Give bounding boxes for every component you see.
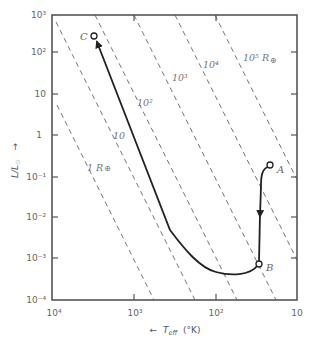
x-tick-label: 10⁴ (46, 308, 61, 318)
x-tick-label: 10³ (127, 308, 142, 318)
point-c-marker (91, 33, 97, 39)
x-tick-label: 10² (208, 308, 223, 318)
radius-line-100 (95, 15, 237, 300)
point-c-label: C (80, 31, 88, 42)
radius-label-1000: 10³ (172, 72, 188, 83)
y-tick-label: 10⁻¹ (26, 172, 46, 182)
y-tick-label: 10⁻² (26, 212, 46, 222)
radius-line-1 (57, 105, 154, 300)
point-b-label: B (265, 262, 273, 273)
point-a-label: A (276, 164, 284, 175)
hr-diagram-chart: 10³ 10² 10 1 10⁻¹ 10⁻² 10⁻³ 10⁻⁴ 10⁴ 10³… (0, 0, 317, 352)
point-a-marker (267, 162, 273, 168)
y-tick-label: 1 (36, 130, 42, 140)
y-tick-label: 10² (31, 47, 46, 57)
x-tick-label: 10 (291, 308, 303, 318)
track-a-to-b-lower (259, 214, 260, 262)
truncated-caption (8, 346, 308, 352)
point-b-marker (256, 261, 262, 267)
y-tick-label: 10 (35, 89, 47, 99)
radius-line-10 (56, 22, 195, 300)
constant-radius-lines (56, 15, 317, 300)
radius-label-10: 10 (113, 130, 125, 141)
y-axis-label: L/L⊙ → (10, 143, 22, 178)
radius-label-10000: 10⁴ (203, 59, 219, 70)
y-tick-label: 10³ (31, 10, 46, 20)
y-tick-labels: 10³ 10² 10 1 10⁻¹ 10⁻² 10⁻³ 10⁻⁴ (26, 10, 46, 305)
track-a-to-b (260, 167, 268, 216)
track-points (91, 33, 273, 267)
radius-label-100000: 10⁵ R⊕ (243, 52, 277, 65)
x-axis-ticks (134, 15, 216, 300)
y-tick-label: 10⁻³ (26, 253, 46, 263)
y-tick-label: 10⁻⁴ (26, 295, 46, 305)
x-tick-labels: 10⁴ 10³ 10² 10 (46, 308, 303, 318)
radius-label-100: 10² (137, 97, 153, 108)
radius-label-1: 1 R⊕ (87, 162, 111, 173)
radius-line-labels: 1 R⊕ 10 10² 10³ 10⁴ 10⁵ R⊕ (87, 52, 277, 173)
x-axis-label: ← Teff (°K) (150, 325, 201, 337)
